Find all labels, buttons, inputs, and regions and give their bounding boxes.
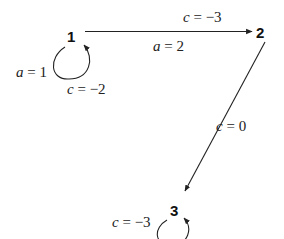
node-2: 2 — [256, 24, 264, 41]
node-3: 3 — [170, 202, 178, 219]
edge-1-2-label-a: a = 2 — [153, 38, 184, 54]
edge-1-2-label-c: c = −3 — [183, 9, 222, 25]
self-loop-1-label-c: c = −2 — [67, 81, 106, 97]
state-diagram: 1 2 3 c = −3 a = 2 a = 1 c = −2 c = 0 c … — [0, 0, 284, 239]
self-loop-1-label-a: a = 1 — [16, 64, 47, 80]
self-loop-1-arrow — [53, 45, 89, 79]
self-loop-3-arrow — [157, 218, 188, 239]
edge-2-to-3-arrow — [185, 42, 265, 191]
edge-2-3-label-c: c = 0 — [216, 118, 246, 134]
node-1: 1 — [67, 28, 75, 45]
self-loop-3-label-c: c = −3 — [112, 214, 151, 230]
